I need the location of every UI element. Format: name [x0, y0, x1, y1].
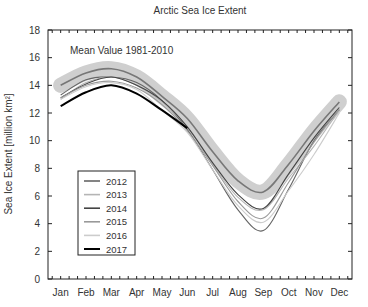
- y-tick-label: 4: [34, 218, 40, 229]
- chart-title: Arctic Sea Ice Extent: [154, 5, 247, 16]
- y-tick-label: 6: [34, 191, 40, 202]
- x-tick-label: Nov: [305, 287, 323, 298]
- legend-item-2016: 2016: [106, 230, 127, 241]
- x-tick-label: Sep: [254, 287, 272, 298]
- legend-item-2013: 2013: [106, 189, 127, 200]
- x-tick-label: Oct: [281, 287, 297, 298]
- y-tick-label: 18: [29, 25, 41, 36]
- legend: 201220132014201520162017: [78, 171, 135, 255]
- y-tick-label: 16: [29, 52, 41, 63]
- legend-item-2017: 2017: [106, 244, 127, 255]
- x-tick-label: Jun: [179, 287, 195, 298]
- mean-annotation: Mean Value 1981-2010: [70, 45, 174, 56]
- x-tick-label: Jul: [206, 287, 219, 298]
- x-tick-label: May: [153, 287, 172, 298]
- y-tick-label: 0: [34, 274, 40, 285]
- y-tick-label: 12: [29, 108, 41, 119]
- y-axis-label: Sea Ice Extent [million km²]: [3, 93, 14, 214]
- y-tick-label: 8: [34, 163, 40, 174]
- x-tick-label: Mar: [103, 287, 121, 298]
- y-tick-label: 2: [34, 246, 40, 257]
- x-tick-label: Apr: [129, 287, 145, 298]
- x-tick-label: Jan: [53, 287, 69, 298]
- sea-ice-chart: Arctic Sea Ice Extent 024681012141618 Ja…: [0, 0, 368, 307]
- x-tick-label: Dec: [330, 287, 348, 298]
- x-tick-label: Aug: [229, 287, 247, 298]
- legend-item-2015: 2015: [106, 216, 127, 227]
- legend-item-2012: 2012: [106, 176, 127, 187]
- y-tick-label: 14: [29, 80, 41, 91]
- legend-item-2014: 2014: [106, 203, 127, 214]
- x-tick-label: Feb: [77, 287, 95, 298]
- y-tick-label: 10: [29, 135, 41, 146]
